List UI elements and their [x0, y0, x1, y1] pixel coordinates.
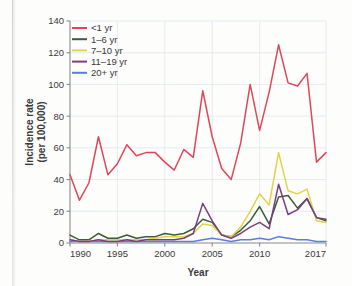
legend: <1 yr1–6 yr7–10 yr11–19 yr20+ yr — [72, 22, 127, 78]
page-edge-shadow — [13, 0, 16, 286]
series-line — [70, 153, 326, 242]
y-axis-tick-labels: 020406080100120140 — [48, 15, 64, 248]
x-axis-title: Year — [187, 267, 208, 278]
series-line — [70, 184, 326, 241]
legend-label: <1 yr — [91, 22, 112, 33]
y-tick-label: 20 — [53, 206, 64, 217]
x-tick-label: 2005 — [202, 248, 223, 259]
legend-label: 7–10 yr — [91, 45, 123, 56]
x-tick-label: 1995 — [107, 248, 128, 259]
y-tick-label: 40 — [53, 174, 64, 185]
y-tick-label: 60 — [53, 142, 64, 153]
y-axis-title-line2: (per 100,000) — [36, 101, 47, 162]
x-tick-label: 2000 — [154, 248, 175, 259]
legend-label: 20+ yr — [91, 67, 118, 78]
legend-label: 1–6 yr — [91, 34, 117, 45]
incidence-rate-line-chart: 020406080100120140 199019952000200520102… — [0, 0, 352, 286]
y-tick-label: 80 — [53, 111, 64, 122]
legend-label: 11–19 yr — [91, 56, 127, 67]
figure-container: 020406080100120140 199019952000200520102… — [0, 0, 352, 286]
y-tick-label: 140 — [48, 15, 64, 26]
x-tick-label: 1990 — [70, 248, 91, 259]
y-tick-label: 120 — [48, 47, 64, 58]
x-tick-label: 2010 — [249, 248, 270, 259]
y-tick-label: 100 — [48, 79, 64, 90]
x-axis-tick-labels: 199019952000200520102017 — [70, 248, 326, 259]
x-tick-label: 2017 — [305, 248, 326, 259]
y-tick-label: 0 — [59, 237, 64, 248]
y-axis-title-line1: Incidence rate — [24, 98, 35, 166]
